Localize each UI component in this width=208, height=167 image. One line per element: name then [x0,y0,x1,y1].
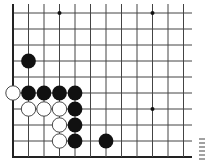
black-stone [68,86,83,101]
star-point [151,107,155,111]
cropped-caption-fragment [199,138,205,160]
white-stone [52,102,66,116]
black-stone [37,86,52,101]
white-stone [52,134,66,148]
black-stone [68,102,83,117]
white-stone [21,102,35,116]
star-point [58,11,62,15]
black-stone [68,134,83,149]
white-stone [52,118,66,132]
white-stone [6,86,20,100]
black-stone [68,118,83,133]
black-stone [52,86,67,101]
black-stone [21,86,36,101]
white-stone [37,102,51,116]
go-board [0,0,208,167]
black-stone [21,54,36,69]
star-point [151,11,155,15]
black-stone [99,134,114,149]
